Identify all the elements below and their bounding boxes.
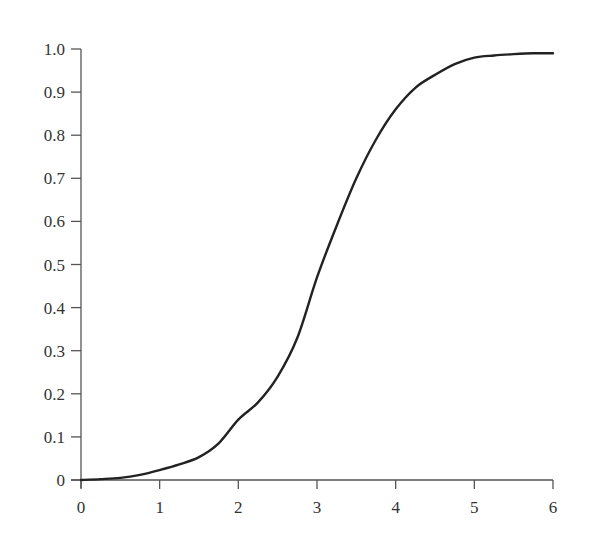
y-tick-label: 0.1 — [44, 428, 65, 447]
x-axis: 0123456 — [71, 480, 557, 517]
y-tick-label: 0.9 — [44, 83, 65, 102]
sigmoid-curve — [81, 53, 553, 480]
plot-area — [81, 53, 553, 480]
x-tick-label: 1 — [155, 498, 164, 517]
x-tick-label: 4 — [391, 498, 400, 517]
y-tick-label: 0 — [57, 471, 66, 490]
x-tick-label: 5 — [470, 498, 479, 517]
y-tick-label: 0.7 — [44, 169, 66, 188]
sigmoid-line-chart: 00.10.20.30.40.50.60.70.80.91.0 0123456 — [0, 0, 590, 546]
y-axis: 00.10.20.30.40.50.60.70.80.91.0 — [44, 40, 81, 490]
x-tick-label: 2 — [234, 498, 243, 517]
x-tick-label: 6 — [549, 498, 558, 517]
y-tick-label: 0.6 — [44, 212, 65, 231]
x-tick-label: 0 — [77, 498, 86, 517]
y-tick-label: 0.8 — [44, 126, 65, 145]
y-tick-label: 0.3 — [44, 342, 65, 361]
y-tick-label: 0.2 — [44, 385, 65, 404]
y-tick-label: 1.0 — [44, 40, 65, 59]
y-tick-label: 0.5 — [44, 256, 65, 275]
y-tick-label: 0.4 — [44, 299, 66, 318]
x-tick-label: 3 — [313, 498, 322, 517]
